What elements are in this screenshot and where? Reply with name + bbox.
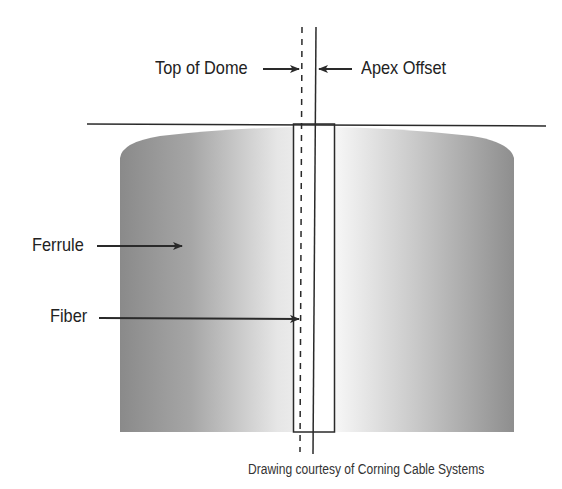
top-of-dome-label: Top of Dome	[155, 57, 248, 79]
apex-offset-label: Apex Offset	[361, 57, 446, 79]
top-reference-line	[87, 124, 546, 126]
fiber-arrow-icon	[99, 318, 299, 319]
ferrule-label: Ferrule	[32, 234, 84, 256]
diagram-caption: Drawing courtesy of Corning Cable System…	[248, 461, 484, 477]
diagram-canvas	[0, 0, 562, 489]
fiber-label: Fiber	[50, 305, 87, 327]
ferrule-apex-offset-diagram: Top of Dome Apex Offset Ferrule Fiber Dr…	[0, 0, 562, 489]
